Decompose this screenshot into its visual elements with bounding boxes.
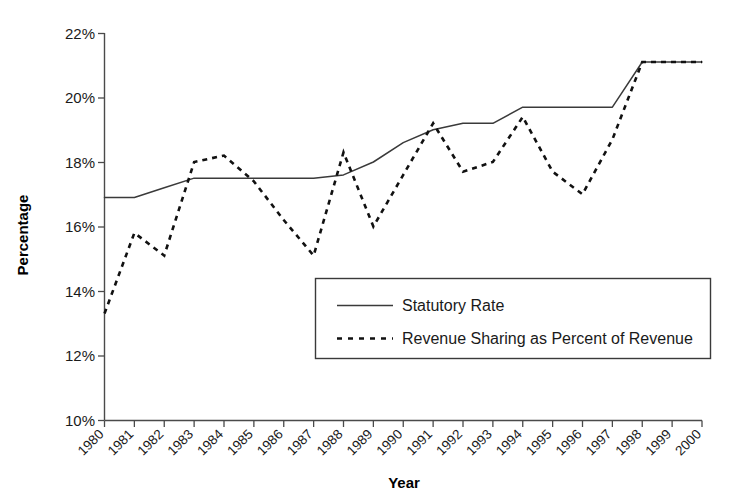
y-axis-tick-label: 10% <box>65 412 95 429</box>
x-axis-tick-label: 1990 <box>374 427 406 459</box>
x-axis-tick-label: 1998 <box>613 427 645 459</box>
x-axis-tick-label: 1999 <box>642 427 674 459</box>
x-axis-tick-label: 1993 <box>463 427 495 459</box>
x-axis-tick-label: 1995 <box>523 427 555 459</box>
x-axis-title: Year <box>388 474 420 491</box>
x-axis-tick-label: 1981 <box>105 427 137 459</box>
x-axis-tick-label: 1991 <box>403 427 435 459</box>
y-axis-tick-labels: 22%20%18%16%14%12%10% <box>65 25 95 429</box>
y-axis-tick-label: 18% <box>65 154 95 171</box>
x-axis-tick-label: 1989 <box>344 427 376 459</box>
x-axis-tick-label: 1992 <box>433 427 465 459</box>
x-axis-tick-label: 1984 <box>194 426 226 458</box>
x-axis-tick-label: 1987 <box>284 427 316 459</box>
line-chart-svg: 22%20%18%16%14%12%10% 198019811982198319… <box>0 0 755 500</box>
y-axis-tick-label: 22% <box>65 25 95 42</box>
x-axis-tick-label: 1988 <box>314 427 346 459</box>
x-axis-tick-label: 1985 <box>224 427 256 459</box>
x-axis-tick-label: 1980 <box>75 427 107 459</box>
y-axis-tick-label: 12% <box>65 347 95 364</box>
legend-label-revenue-sharing: Revenue Sharing as Percent of Revenue <box>402 330 693 347</box>
y-axis-tick-label: 14% <box>65 283 95 300</box>
x-axis-tick-labels: 1980198119821983198419851986198719881989… <box>75 426 704 458</box>
y-axis-title: Percentage <box>14 195 31 276</box>
legend: Statutory Rate Revenue Sharing as Percen… <box>316 279 711 359</box>
y-axis-tick-label: 20% <box>65 89 95 106</box>
x-axis-tick-label: 1997 <box>583 427 615 459</box>
legend-label-statutory-rate: Statutory Rate <box>402 297 504 314</box>
x-axis-tick-label: 1982 <box>135 427 167 459</box>
x-axis-tick-marks <box>105 421 703 428</box>
y-axis-tick-label: 16% <box>65 218 95 235</box>
x-axis-tick-label: 1994 <box>493 426 525 458</box>
x-axis-tick-label: 1986 <box>254 427 286 459</box>
x-axis-tick-label: 1983 <box>164 427 196 459</box>
x-axis-tick-label: 1996 <box>553 427 585 459</box>
x-axis-tick-label: 2000 <box>672 427 704 459</box>
y-axis-tick-marks <box>98 34 105 421</box>
series-revenue-sharing-line <box>105 62 703 314</box>
chart-container: 22%20%18%16%14%12%10% 198019811982198319… <box>0 0 755 500</box>
